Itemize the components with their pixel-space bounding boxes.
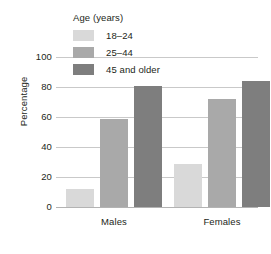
bar-males-25-44 (100, 119, 128, 208)
y-tick-60: 60 (18, 112, 52, 122)
y-axis-tick-labels: 100 80 60 40 20 0 (14, 57, 52, 207)
legend-swatch-icon-45-older (73, 64, 94, 75)
legend-swatch-icon-18-24 (73, 30, 94, 41)
legend-title: Age (years) (73, 12, 213, 24)
legend-label-45-older: 45 and older (106, 64, 160, 76)
legend-swatch-icon-25-44 (73, 47, 94, 58)
x-axis-tick-labels: Males Females (56, 216, 258, 232)
x-axis-baseline (56, 207, 258, 208)
y-tick-20: 20 (18, 172, 52, 182)
x-tick-females: Females (172, 216, 271, 228)
bar-males-45-older (134, 86, 162, 208)
bar-chart: Percentage 100 80 60 40 20 0 Males Femal… (0, 0, 271, 254)
bar-females-45-older (242, 81, 270, 207)
legend-item-18-24: 18–24 (73, 28, 213, 43)
x-tick-males: Males (64, 216, 164, 228)
bar-males-18-24 (66, 189, 94, 207)
y-tick-0: 0 (18, 202, 52, 212)
legend-label-25-44: 25–44 (106, 47, 133, 59)
y-tick-80: 80 (18, 82, 52, 92)
legend-label-18-24: 18–24 (106, 30, 133, 42)
y-tick-40: 40 (18, 142, 52, 152)
legend-item-25-44: 25–44 (73, 45, 213, 60)
bar-females-25-44 (208, 99, 236, 207)
legend-item-45-older: 45 and older (73, 62, 213, 77)
plot-area (56, 57, 258, 207)
y-tick-100: 100 (18, 52, 52, 62)
bar-females-18-24 (174, 164, 202, 208)
legend: Age (years) 18–24 25–44 45 and older (73, 12, 213, 79)
